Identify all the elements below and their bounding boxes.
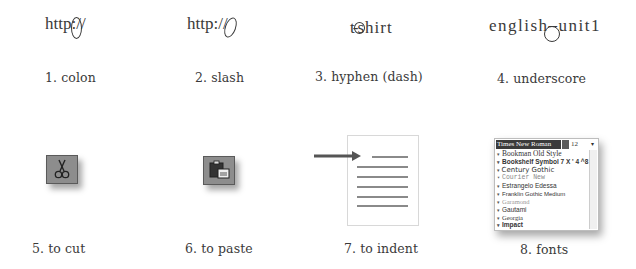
label-underscore: 4. underscore	[497, 71, 586, 86]
indent-arrow-icon	[314, 150, 364, 162]
highlight-circle-icon	[354, 22, 365, 34]
text-line	[357, 196, 408, 198]
sample-text: unit1	[559, 16, 601, 35]
sample-text: http	[45, 14, 71, 33]
sample-text: http:	[187, 14, 218, 33]
clipboard-paste-icon	[204, 157, 234, 184]
font-option-label: Garamond	[502, 198, 529, 205]
font-option[interactable]: ▾Century Gothic	[497, 166, 554, 174]
label-cut: 5. to cut	[32, 241, 85, 256]
font-dropdown-arrow-icon[interactable]	[562, 140, 569, 149]
highlight-circle-icon	[544, 26, 560, 42]
truetype-icon: ▾	[497, 207, 500, 213]
indented-line	[372, 156, 408, 158]
font-option-label: Franklin Gothic Medium	[502, 191, 565, 197]
size-dropdown-arrow-icon[interactable]: ▾	[591, 140, 594, 149]
scissors-icon	[47, 156, 77, 183]
truetype-icon: ▾	[497, 222, 500, 228]
font-list-scrollbar[interactable]	[589, 150, 597, 229]
label-indent: 7. to indent	[344, 241, 418, 256]
text-line	[357, 166, 408, 168]
font-option-label: Courier New	[502, 174, 545, 181]
truetype-icon: ▾	[497, 200, 500, 205]
font-option[interactable]: ▾Courier New	[497, 174, 545, 182]
truetype-icon: ▾	[497, 167, 500, 173]
text-line	[357, 205, 408, 207]
label-hyphen: 3. hyphen (dash)	[315, 69, 423, 84]
highlight-circle-icon	[71, 17, 82, 39]
text-line	[357, 186, 408, 188]
truetype-icon: ▾	[497, 175, 500, 181]
label-slash: 2. slash	[195, 70, 244, 85]
sample-text: english	[489, 16, 549, 35]
truetype-icon: ▾	[497, 152, 500, 157]
text-line	[357, 176, 408, 178]
label-paste: 6. to paste	[185, 241, 253, 256]
slash-sample: http://	[187, 14, 228, 34]
document-page	[347, 135, 419, 226]
font-option-label: Gautami	[502, 206, 527, 213]
font-option-label: Bookshelf Symbol 7 X ' 4 ^8 !	[502, 158, 592, 165]
font-dropdown[interactable]: Times New Roman 12 ▾ ▾Bookman Old Style …	[494, 138, 599, 231]
font-name-field[interactable]: Times New Roman	[496, 140, 561, 149]
font-option-label: Estrangelo Edessa	[502, 182, 557, 189]
paste-button[interactable]	[203, 156, 235, 185]
font-option-label: Century Gothic	[502, 166, 555, 174]
font-option-label: Bookman Old Style	[502, 149, 562, 158]
font-size-field[interactable]: 12	[571, 140, 591, 149]
cut-button[interactable]	[46, 155, 78, 184]
font-option[interactable]: ▾Estrangelo Edessa	[497, 182, 557, 190]
font-option[interactable]: ▾Franklin Gothic Medium	[497, 190, 565, 198]
truetype-icon: ▾	[497, 183, 500, 189]
truetype-icon: ▾	[497, 159, 500, 165]
font-option[interactable]: ▾Impact	[497, 221, 523, 229]
font-option-label: Georgia	[502, 214, 523, 221]
font-option[interactable]: ▾Bookshelf Symbol 7 X ' 4 ^8 !	[497, 158, 592, 166]
font-option[interactable]: ▾Gautami	[497, 206, 527, 214]
label-colon: 1. colon	[45, 70, 96, 85]
label-fonts: 8. fonts	[520, 242, 568, 257]
font-option-label: Impact	[502, 221, 523, 228]
truetype-icon: ▾	[497, 191, 500, 197]
